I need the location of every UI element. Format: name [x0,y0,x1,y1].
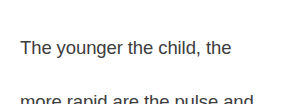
text-card: The younger the child, the more rapid ar… [0,0,295,104]
text-line-1: The younger the child, the [20,34,287,61]
text-line-2: more rapid are the pulse and [20,88,287,104]
card-body-text: The younger the child, the more rapid ar… [20,7,287,104]
